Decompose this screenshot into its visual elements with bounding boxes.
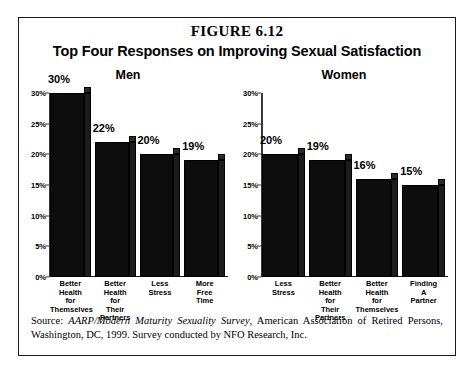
y-tick-label: 10% [243,211,258,220]
bar-value-label: 15% [400,165,422,177]
bar-side-face [218,160,225,277]
category-label: LessStress [262,280,305,297]
bar-top-face [218,154,225,160]
bar-top-face [345,154,352,160]
panel-title-women: Women [235,68,453,82]
bar-front-face [95,142,129,277]
y-tick-mark [257,123,261,124]
category-label-line: Time [184,297,225,306]
y-tick-mark [257,277,261,278]
bar-value-label: 19% [182,140,204,152]
bar-group-women: 20%19%16%15% [262,93,449,277]
bar-top-face [129,136,136,142]
y-tick-label: 15% [31,181,46,190]
bar[interactable]: 16% [356,93,399,277]
bar[interactable]: 30% [50,93,91,277]
bar-value-label: 20% [138,134,160,146]
category-label-line: Partner [402,297,445,306]
bar-top-face [84,87,91,93]
y-tick-mark [257,93,261,94]
category-label: LessStress [140,280,181,297]
source-prefix: Source: [31,315,68,326]
y-tick-mark [45,123,49,124]
chart-panel-women: Women 30%25%20%15%10%5%0% 20%19%16%15% L… [235,68,453,313]
y-tick-mark [45,185,49,186]
y-tick-label: 25% [243,119,258,128]
source-title: AARP/Modern Maturity Sexuality Survey [68,315,249,326]
bar-side-face [173,154,180,277]
bar[interactable]: 20% [262,93,305,277]
bar-side-face [129,142,136,277]
y-tick-mark [45,277,49,278]
y-tick-label: 30% [31,89,46,98]
chart-panel-men: Men 30%25%20%15%10%5%0% 30%22%20%19% Bet… [23,68,233,313]
bar-top-face [298,148,305,154]
bar-front-face [309,160,345,277]
y-tick-label: 20% [243,150,258,159]
category-label-line: Stress [262,289,305,298]
bar-value-label: 16% [354,159,376,171]
source-note: Source: AARP/Modern Maturity Sexuality S… [31,314,443,341]
bar-top-face [438,179,445,185]
y-tick-label: 10% [31,211,46,220]
category-label: MoreFreeTime [184,280,225,306]
bar[interactable]: 22% [95,93,136,277]
bar[interactable]: 19% [184,93,225,277]
y-tick-label: 25% [31,119,46,128]
y-tick-mark [45,93,49,94]
figure-title: Top Four Responses on Improving Sexual S… [19,43,455,59]
y-tick-label: 20% [31,150,46,159]
y-tick-mark [257,185,261,186]
bar-top-face [391,173,398,179]
bar-side-face [391,179,398,277]
category-label: FindingAPartner [402,280,445,306]
y-tick-mark [45,246,49,247]
bar-front-face [140,154,174,277]
bar-side-face [438,185,445,277]
bar-value-label: 30% [48,73,70,85]
y-tick-label: 30% [243,89,258,98]
category-label-line: Stress [140,289,181,298]
bar-value-label: 22% [93,122,115,134]
bar-front-face [50,93,84,277]
y-tick-label: 15% [243,181,258,190]
plot-area-men: 30%25%20%15%10%5%0% 30%22%20%19% BetterH… [23,93,233,298]
plot-area-women: 30%25%20%15%10%5%0% 20%19%16%15% LessStr… [235,93,453,298]
bar-side-face [345,160,352,277]
bar-front-face [184,160,218,277]
y-tick-mark [257,154,261,155]
bar[interactable]: 15% [402,93,445,277]
bar[interactable]: 19% [309,93,352,277]
bar-front-face [356,179,392,277]
figure-number: FIGURE 6.12 [19,23,455,40]
category-label: BetterHealthforThemselves [356,280,399,314]
bar[interactable]: 20% [140,93,181,277]
bar-front-face [402,185,438,277]
y-tick-mark [45,215,49,216]
category-label: BetterHealthforThemselves [50,280,91,314]
figure-frame: FIGURE 6.12 Top Four Responses on Improv… [18,17,456,356]
bar-side-face [84,93,91,277]
bar-top-face [173,148,180,154]
bar-value-label: 20% [260,134,282,146]
y-tick-mark [257,215,261,216]
bar-side-face [298,154,305,277]
bar-value-label: 19% [307,140,329,152]
bar-front-face [262,154,298,277]
y-tick-mark [257,246,261,247]
y-tick-mark [45,154,49,155]
bar-group-men: 30%22%20%19% [50,93,229,277]
